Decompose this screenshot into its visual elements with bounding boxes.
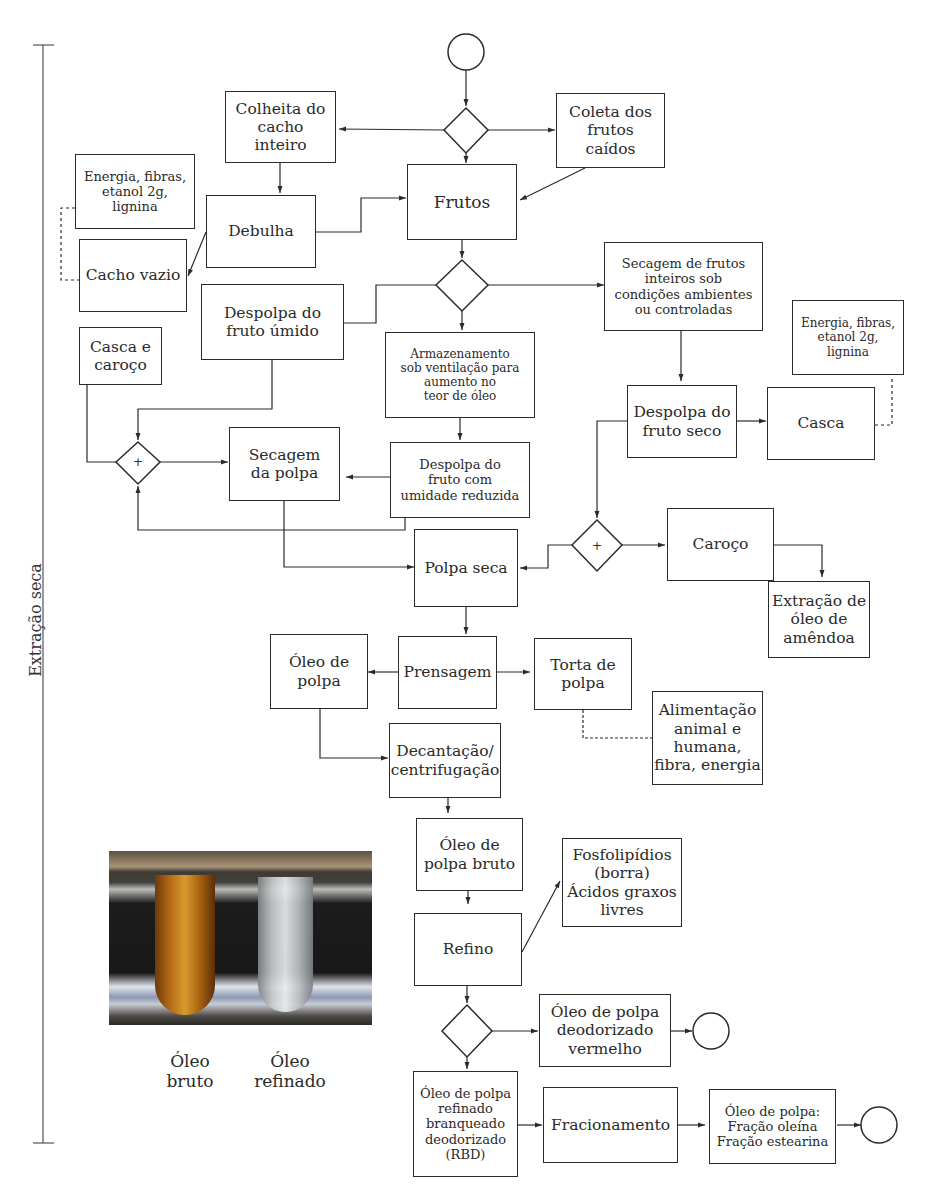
node-caroco: Caroço xyxy=(667,508,774,581)
node-extracao-amendoa: Extração de óleo de amêndoa xyxy=(768,581,870,658)
refined-oil-tube xyxy=(258,877,313,1012)
side-label-extracao-seca: Extração seca xyxy=(22,540,50,700)
node-despolpa-umidade-reduzida: Despolpa do fruto com umidade reduzida xyxy=(390,442,530,518)
crude-oil-tube xyxy=(155,875,215,1015)
node-coleta: Coleta dos frutos caídos xyxy=(556,93,665,168)
caption-oleo-refinado: Óleo refinado xyxy=(245,1052,335,1091)
node-despolpa-seco: Despolpa do fruto seco xyxy=(627,385,737,458)
start-event-circle xyxy=(448,34,484,70)
gateway-refining-output xyxy=(442,1005,492,1057)
node-torta-polpa: Torta de polpa xyxy=(534,638,632,710)
node-armazenamento: Armazenamento sob ventilação para aument… xyxy=(385,332,535,418)
node-frutos: Frutos xyxy=(407,164,517,240)
node-deodorizado-vermelho: Óleo de polpa deodorizado vermelho xyxy=(539,994,671,1067)
node-fosfolipidios: Fosfolipídios (borra) Ácidos graxos livr… xyxy=(562,838,682,927)
node-polpa-seca: Polpa seca xyxy=(414,529,518,607)
caption-oleo-bruto: Óleo bruto xyxy=(155,1052,225,1091)
node-oleo-bruto: Óleo de polpa bruto xyxy=(416,818,523,891)
node-subproduto-casca: Energia, fibras, etanol 2g, lignina xyxy=(792,300,904,375)
node-secagem-frutos: Secagem de frutos inteiros sob condições… xyxy=(604,242,763,331)
node-refino: Refino xyxy=(414,913,522,986)
node-fracoes: Óleo de polpa: Fração oleína Fração este… xyxy=(709,1089,836,1164)
node-rbd: Óleo de polpa refinado branqueado deodor… xyxy=(413,1071,518,1177)
node-cacho-vazio: Cacho vazio xyxy=(79,239,187,312)
parallel-gateway-symbol-wet: + xyxy=(133,455,143,469)
node-casca: Casca xyxy=(767,387,875,460)
node-colheita: Colheita do cacho inteiro xyxy=(225,91,336,163)
parallel-gateway-symbol-dry: + xyxy=(592,539,602,553)
oil-comparison-photo xyxy=(109,851,372,1025)
gateway-harvest xyxy=(444,108,488,153)
node-casca-caroco: Casca e caroço xyxy=(79,327,162,385)
node-oleo-polpa: Óleo de polpa xyxy=(270,634,368,709)
node-prensagem: Prensagem xyxy=(398,636,497,709)
gateway-processing xyxy=(436,260,488,311)
end-event-circle-2 xyxy=(861,1107,897,1143)
node-alimentacao: Alimentação animal e humana, fibra, ener… xyxy=(652,691,763,785)
node-fracionamento: Fracionamento xyxy=(543,1087,678,1163)
node-subproduto-cacho: Energia, fibras, etanol 2g, lignina xyxy=(75,154,195,229)
node-secagem-polpa: Secagem da polpa xyxy=(229,427,340,501)
node-debulha: Debulha xyxy=(206,195,316,268)
end-event-circle-1 xyxy=(693,1013,729,1049)
node-despolpa-umido: Despolpa do fruto úmido xyxy=(201,284,344,360)
node-decantacao: Decantação/ centrifugação xyxy=(389,723,501,798)
